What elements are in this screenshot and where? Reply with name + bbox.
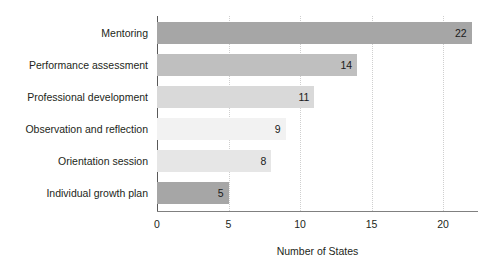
bar-value-label: 14 — [322, 54, 352, 76]
horizontal-bar-chart: 22 14 11 9 8 5 Mentoring Performance as — [0, 0, 490, 275]
bar-value-label: 22 — [437, 22, 467, 44]
category-label-professional-development: Professional development — [0, 86, 148, 108]
category-label-individual-growth-plan: Individual growth plan — [0, 182, 148, 204]
x-axis-line — [157, 211, 478, 212]
bar-value-label: 11 — [279, 86, 309, 108]
gridline-15 — [372, 16, 373, 211]
bar-value-label: 8 — [236, 150, 266, 172]
category-label-observation-and-reflection: Observation and reflection — [0, 118, 148, 140]
x-tick-label-5: 5 — [209, 218, 249, 230]
category-label-orientation-session: Orientation session — [0, 150, 148, 172]
bar-mentoring — [157, 22, 472, 44]
plot-area: 22 14 11 9 8 5 — [157, 16, 478, 211]
x-tick-label-15: 15 — [352, 218, 392, 230]
x-tick-label-20: 20 — [423, 218, 463, 230]
bar-value-label: 9 — [251, 118, 281, 140]
category-label-mentoring: Mentoring — [0, 22, 148, 44]
category-label-performance-assessment: Performance assessment — [0, 54, 148, 76]
x-tick-label-10: 10 — [280, 218, 320, 230]
gridline-10 — [300, 16, 301, 211]
x-axis-title: Number of States — [157, 245, 478, 257]
x-tick-label-0: 0 — [137, 218, 177, 230]
bar-value-label: 5 — [194, 182, 224, 204]
gridline-5 — [229, 16, 230, 211]
gridline-20 — [443, 16, 444, 211]
